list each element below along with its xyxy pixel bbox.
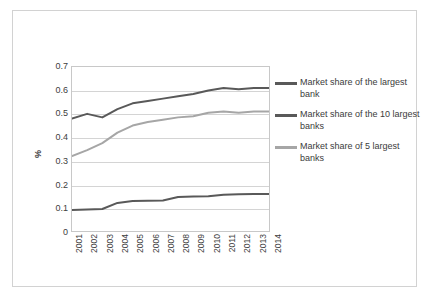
y-axis-tick-label: 0 (43, 228, 68, 237)
x-axis-tick-label: 2013 (259, 234, 268, 253)
y-axis-tick-label: 0.3 (43, 156, 68, 165)
series-line (72, 194, 269, 210)
x-axis-tick-label: 2011 (228, 234, 237, 252)
y-axis-tick-labels: 00.10.20.30.40.50.60.7 (43, 59, 68, 239)
legend-color-swatch (275, 114, 297, 117)
plot-area (71, 66, 270, 232)
x-axis-tick-label: 2007 (167, 234, 176, 253)
legend-entry: Market share of the 10 largest banks (275, 109, 423, 132)
series-lines (72, 67, 269, 231)
x-axis-tick-label: 2002 (90, 234, 99, 253)
x-axis-tick-label: 2006 (152, 234, 161, 253)
legend-label: Market share of the 10 largest banks (300, 109, 420, 132)
x-axis-tick-label: 2008 (182, 234, 191, 253)
y-axis-tick-label: 0.2 (43, 180, 68, 189)
x-axis-tick-label: 2001 (75, 234, 84, 253)
y-axis-title-text: % (33, 150, 43, 158)
y-axis-tick-label: 0.7 (43, 62, 68, 71)
y-axis-tick-label: 0.1 (43, 204, 68, 213)
legend-entry: Market share of 5 largest banks (275, 141, 423, 164)
x-axis-tick-label: 2009 (197, 234, 206, 253)
x-axis-tick-label: 2004 (121, 234, 130, 253)
series-line (72, 88, 269, 118)
legend-entry: Market share of the largest bank (275, 77, 423, 100)
x-axis-tick-label: 2014 (274, 234, 283, 253)
x-axis-tick-label: 2010 (213, 234, 222, 253)
y-axis-tick-label: 0.6 (43, 85, 68, 94)
chart-figure-frame: % 00.10.20.30.40.50.60.7 200120022003200… (12, 10, 417, 287)
legend-color-swatch (275, 146, 297, 149)
legend-color-swatch (275, 82, 297, 85)
legend-label: Market share of 5 largest banks (300, 141, 420, 164)
legend-label: Market share of the largest bank (300, 77, 420, 100)
y-axis-tick-label: 0.4 (43, 133, 68, 142)
x-axis-tick-label: 2012 (243, 234, 252, 253)
chart-legend: Market share of the largest bankMarket s… (275, 77, 423, 173)
x-axis-tick-label: 2005 (136, 234, 145, 253)
x-axis-tick-label: 2003 (106, 234, 115, 253)
y-axis-tick-label: 0.5 (43, 109, 68, 118)
x-axis-tick-labels: 2001200220032004200520062007200820092010… (71, 234, 270, 274)
